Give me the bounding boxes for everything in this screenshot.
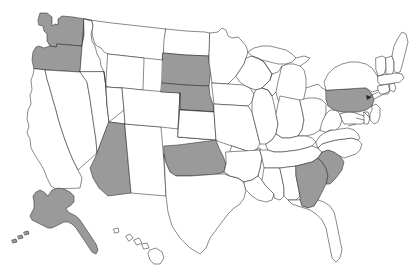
state-rhode-island[interactable] bbox=[390, 83, 396, 92]
state-oklahoma[interactable] bbox=[164, 140, 226, 176]
state-wyoming[interactable] bbox=[106, 54, 144, 90]
state-new-mexico[interactable] bbox=[125, 124, 166, 196]
state-new-jersey[interactable] bbox=[370, 104, 380, 124]
state-colorado[interactable] bbox=[122, 88, 180, 129]
state-connecticut[interactable] bbox=[378, 84, 390, 94]
state-delaware[interactable] bbox=[364, 112, 370, 124]
state-kansas-body[interactable] bbox=[178, 110, 216, 140]
state-indiana[interactable] bbox=[276, 96, 304, 138]
state-hawaii[interactable] bbox=[114, 228, 164, 264]
state-washington[interactable] bbox=[38, 13, 85, 47]
state-alaska[interactable] bbox=[30, 188, 98, 254]
leader-line-maryland bbox=[348, 124, 356, 126]
us-choropleth-map bbox=[0, 0, 410, 272]
state-maine[interactable] bbox=[392, 32, 408, 73]
us-map-svg bbox=[0, 0, 410, 272]
alaska-aleutian-islands bbox=[12, 231, 29, 243]
state-pennsylvania[interactable] bbox=[326, 88, 374, 112]
state-south-dakota[interactable] bbox=[162, 53, 211, 86]
state-new-york[interactable] bbox=[324, 62, 382, 92]
state-vermont[interactable] bbox=[376, 56, 386, 76]
state-maryland[interactable] bbox=[340, 112, 366, 124]
state-georgia[interactable] bbox=[296, 158, 328, 208]
state-florida[interactable] bbox=[288, 200, 342, 262]
